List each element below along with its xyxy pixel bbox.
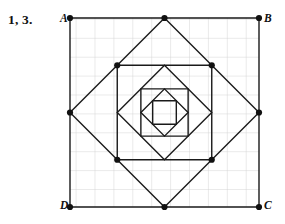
figure-page: 1, 3. A B C D — [0, 0, 285, 224]
dot-bottom-mid — [161, 204, 167, 210]
dot-top-mid — [161, 15, 167, 21]
dot-inner-top-right — [209, 62, 215, 68]
dot-inner-top-left — [114, 62, 120, 68]
dot-left-mid — [67, 109, 73, 115]
dot-inner-bottom-left — [114, 157, 120, 163]
dot-A — [67, 15, 73, 21]
nested-squares-diagram — [0, 0, 285, 224]
graph-paper-grid — [70, 18, 259, 207]
dot-B — [256, 15, 262, 21]
dot-inner-bottom-right — [209, 157, 215, 163]
dot-D — [67, 204, 73, 210]
dot-right-mid — [256, 109, 262, 115]
dot-C — [256, 204, 262, 210]
